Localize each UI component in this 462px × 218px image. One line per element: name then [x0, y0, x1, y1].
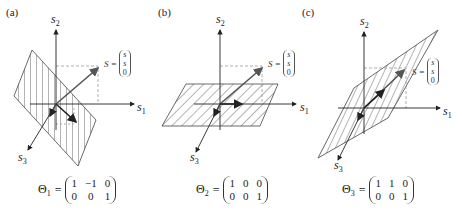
plane-a	[14, 50, 96, 166]
s2-label-c: s2	[360, 14, 369, 30]
s3-label-c: s3	[334, 158, 343, 174]
s1-label-c: s1	[443, 104, 452, 120]
s2-label-a: s2	[51, 12, 60, 28]
s3-label-b: s3	[190, 150, 199, 166]
theta3-equation: Θ3 = 110 001	[342, 176, 414, 204]
theta1-matrix: 1−10 001	[65, 176, 116, 204]
s1-label-a: s1	[137, 100, 146, 116]
s1-label-b: s1	[300, 100, 309, 116]
theta3-matrix: 110 001	[369, 176, 414, 204]
s-column-vector-c: s s 0	[427, 58, 439, 85]
figure: (a) (b) (c) s2 s1 s3 s2 s1 s3 s2 s1 s3 S…	[0, 0, 462, 218]
s2-label-b: s2	[216, 12, 225, 28]
panel-label-c: (c)	[302, 6, 314, 18]
theta1-equation: Θ1 = 1−10 001	[38, 176, 116, 204]
panel-c-graphic	[318, 30, 440, 160]
s-vector-label-a: S = s s 0	[104, 50, 131, 77]
theta2-equation: Θ2 = 100 001	[196, 176, 268, 204]
s-column-vector-a: s s 0	[119, 50, 131, 77]
s-vector-label-c: S = s s 0	[412, 58, 439, 85]
panel-b-graphic	[162, 30, 296, 152]
theta2-matrix: 100 001	[223, 176, 268, 204]
s3-label-a: s3	[18, 150, 27, 166]
s-vector-label-b: S = s s 0	[268, 50, 295, 77]
s-column-vector-b: s s 0	[283, 50, 295, 77]
panel-label-a: (a)	[6, 6, 18, 18]
panel-label-b: (b)	[158, 6, 171, 18]
